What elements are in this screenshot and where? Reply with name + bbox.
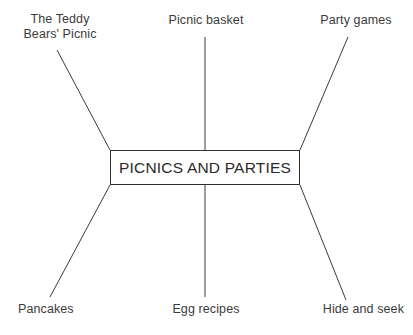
connector-line-hide-and-seek <box>300 185 346 300</box>
mind-map-diagram: The Teddy Bears' Picnic Picnic basket Pa… <box>0 0 413 335</box>
central-topic-label: PICNICS AND PARTIES <box>119 159 291 177</box>
branch-label-teddy-bears-picnic: The Teddy Bears' Picnic <box>12 12 108 42</box>
connector-line-teddy-bears-picnic <box>57 50 110 150</box>
connector-line-pancakes <box>50 185 110 297</box>
central-topic-box: PICNICS AND PARTIES <box>110 150 300 185</box>
connector-line-party-games <box>300 37 348 150</box>
branch-label-picnic-basket: Picnic basket <box>150 13 262 28</box>
branch-label-hide-and-seek: Hide and seek <box>292 302 404 317</box>
branch-label-pancakes: Pancakes <box>18 302 128 317</box>
branch-label-egg-recipes: Egg recipes <box>150 302 262 317</box>
branch-label-party-games: Party games <box>306 13 406 28</box>
